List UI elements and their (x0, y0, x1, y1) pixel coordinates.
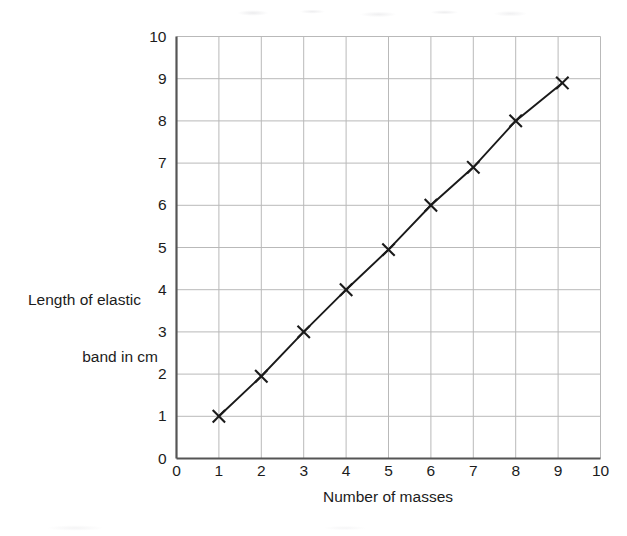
y-tick-label: 6 (141, 196, 167, 214)
data-line (219, 83, 562, 416)
y-tick-label: 8 (141, 112, 167, 130)
y-axis-title-line2: band in cm (28, 347, 164, 366)
x-tick-label: 2 (257, 462, 266, 480)
x-tick-label: 3 (299, 462, 308, 480)
x-tick-label: 0 (172, 462, 181, 480)
y-tick-label: 5 (141, 239, 167, 257)
y-tick-label: 10 (141, 28, 167, 46)
x-tick-label: 7 (469, 462, 478, 480)
y-tick-label: 9 (141, 70, 167, 88)
y-tick-label: 4 (141, 281, 167, 299)
x-tick-label: 9 (554, 462, 563, 480)
y-tick-label: 1 (141, 407, 167, 425)
y-tick-label: 2 (141, 365, 167, 383)
x-tick-label: 4 (342, 462, 351, 480)
series-line (219, 83, 562, 416)
x-tick-label: 5 (384, 462, 393, 480)
data-markers (213, 77, 569, 423)
y-tick-label: 3 (141, 323, 167, 341)
line-chart-figure: Length of elastic band in cm Number of m… (0, 0, 627, 536)
x-tick-label: 10 (592, 462, 609, 480)
x-axis-title: Number of masses (176, 487, 600, 506)
x-tick-label: 6 (427, 462, 436, 480)
x-tick-label: 1 (215, 462, 224, 480)
x-tick-label: 8 (511, 462, 520, 480)
y-tick-label: 7 (141, 154, 167, 172)
y-tick-label: 0 (141, 450, 167, 468)
